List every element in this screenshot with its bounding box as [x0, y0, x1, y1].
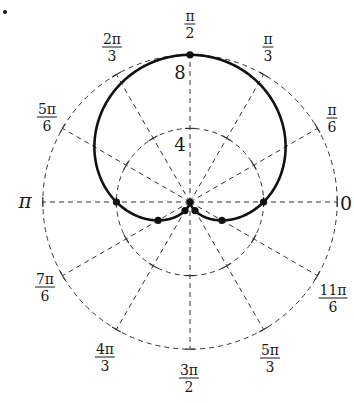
- angle-label-5pi-over-6: 5π6: [37, 102, 57, 133]
- angle-label-zero: 0: [340, 192, 352, 214]
- data-point: [260, 198, 267, 205]
- angle-label-4pi-over-3: 4π3: [95, 342, 115, 373]
- polar-plot: [0, 0, 354, 403]
- angle-label-7pi-over-6: 7π6: [35, 272, 55, 303]
- angle-label-pi-over-2: π2: [184, 9, 195, 40]
- data-point: [113, 198, 120, 205]
- angle-label-2pi-over-3: 2π3: [102, 32, 122, 63]
- data-point: [218, 217, 225, 224]
- angle-label-3pi-over-2: 3π2: [179, 363, 199, 394]
- data-point: [186, 51, 193, 58]
- angle-label-pi-over-3: π3: [262, 32, 273, 63]
- angle-label-11pi-over-6: 11π6: [318, 283, 347, 314]
- angle-label-5pi-over-3: 5π3: [260, 343, 280, 374]
- data-point: [186, 198, 193, 205]
- data-point: [191, 207, 198, 214]
- radial-label-8: 8: [174, 62, 185, 83]
- angle-label-pi: π: [18, 189, 31, 213]
- data-point: [155, 217, 162, 224]
- data-point: [181, 207, 188, 214]
- angle-label-pi-over-6: π6: [326, 103, 337, 134]
- radial-label-4: 4: [174, 134, 185, 155]
